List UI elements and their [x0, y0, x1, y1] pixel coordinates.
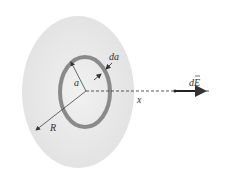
label-R: R — [49, 122, 56, 133]
field-point — [174, 90, 177, 93]
label-dE: dE — [189, 77, 200, 88]
label-x: x — [136, 94, 142, 105]
label-a: a — [74, 77, 79, 88]
charged-disk — [22, 16, 134, 168]
charged-disk-diagram: a da R x dE — [0, 0, 227, 185]
label-da: da — [109, 51, 119, 62]
